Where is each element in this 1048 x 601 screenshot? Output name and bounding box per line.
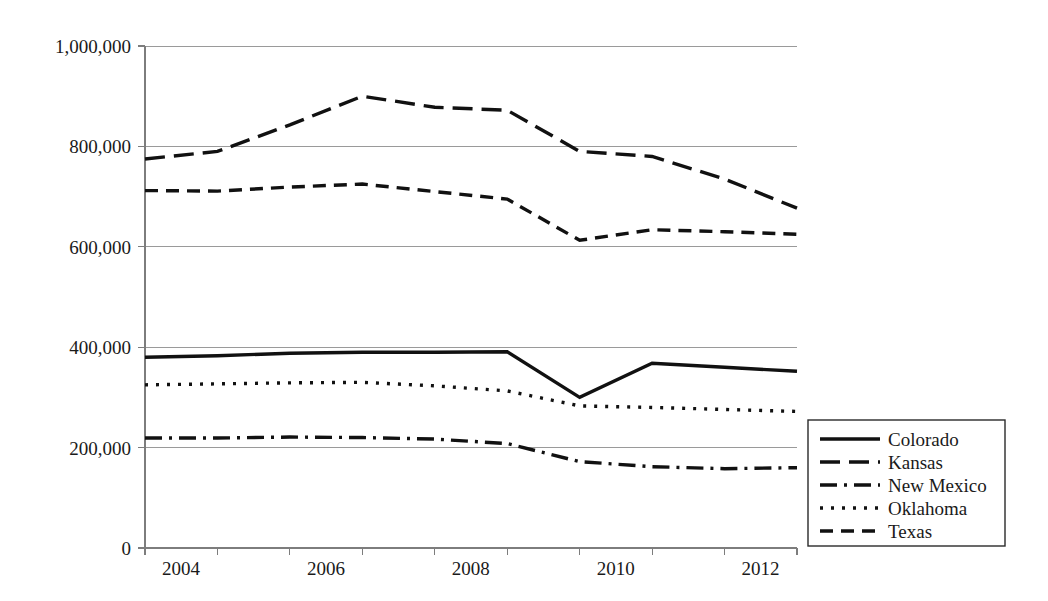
gridlines <box>145 46 797 548</box>
legend-label-oklahoma[interactable]: Oklahoma <box>888 498 968 519</box>
series-line-kansas <box>145 96 797 208</box>
data-series <box>145 96 797 468</box>
chart-page: 0200,000400,000600,000800,0001,000,000 2… <box>0 0 1048 601</box>
series-line-colorado <box>145 352 797 398</box>
y-tick-label: 800,000 <box>69 136 131 157</box>
line-chart: 0200,000400,000600,000800,0001,000,000 2… <box>0 0 1048 601</box>
y-axis-ticks: 0200,000400,000600,000800,0001,000,000 <box>55 36 145 559</box>
legend-label-texas[interactable]: Texas <box>888 521 932 542</box>
x-tick-label: 2006 <box>307 558 345 579</box>
x-tick-label: 2004 <box>162 558 201 579</box>
legend-label-colorado[interactable]: Colorado <box>888 429 959 450</box>
legend-label-kansas[interactable]: Kansas <box>888 452 943 473</box>
series-line-new-mexico <box>145 437 797 469</box>
chart-legend[interactable]: ColoradoKansasNew MexicoOklahomaTexas <box>808 420 1005 546</box>
y-tick-label: 1,000,000 <box>55 36 131 57</box>
y-tick-label: 0 <box>122 538 132 559</box>
x-tick-label: 2010 <box>597 558 635 579</box>
x-axis-ticks: 20042006200820102012 <box>145 548 797 579</box>
x-tick-label: 2008 <box>452 558 490 579</box>
y-tick-label: 200,000 <box>69 438 131 459</box>
y-tick-label: 600,000 <box>69 237 131 258</box>
y-tick-label: 400,000 <box>69 337 131 358</box>
series-line-oklahoma <box>145 382 797 411</box>
series-line-texas <box>145 184 797 240</box>
legend-label-new-mexico[interactable]: New Mexico <box>888 475 987 496</box>
x-tick-label: 2012 <box>742 558 780 579</box>
